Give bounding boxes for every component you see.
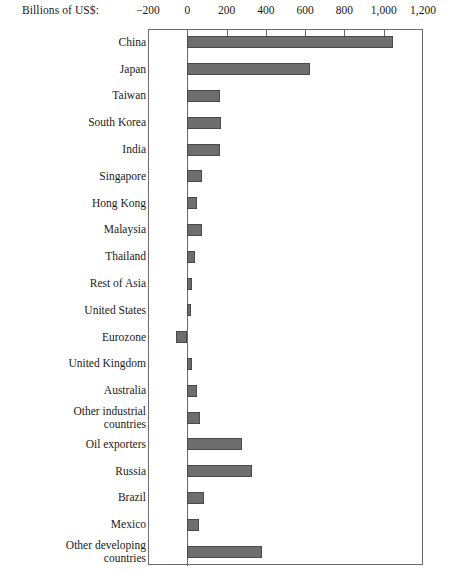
bar-row: Other developing countries (0, 538, 450, 565)
category-label: Japan (0, 63, 146, 76)
category-label: Mexico (0, 518, 146, 531)
bar (187, 90, 220, 102)
bar-row: Taiwan (0, 83, 450, 110)
bar (187, 197, 197, 209)
x-tick-label: 800 (336, 4, 353, 16)
bar (187, 251, 195, 263)
bar-row: Mexico (0, 511, 450, 538)
category-label: Australia (0, 384, 146, 397)
category-label: Other industrial countries (0, 405, 146, 431)
category-label: Other developing countries (0, 539, 146, 565)
bar-row: Malaysia (0, 217, 450, 244)
bar (187, 36, 392, 48)
x-tick-label: 0 (184, 4, 190, 16)
x-tick-label: 1,000 (371, 4, 397, 16)
bar (187, 519, 199, 531)
bar (187, 438, 241, 450)
bar-row: Hong Kong (0, 190, 450, 217)
bar (187, 144, 220, 156)
bar-row: Singapore (0, 163, 450, 190)
bar (187, 170, 202, 182)
bar (187, 117, 221, 129)
bar-row: United Kingdom (0, 351, 450, 378)
bar-row: United States (0, 297, 450, 324)
category-label: United States (0, 304, 146, 317)
bar-row: China (0, 29, 450, 56)
bar-rows: ChinaJapanTaiwanSouth KoreaIndiaSingapor… (0, 29, 450, 565)
bar-row: Australia (0, 377, 450, 404)
category-label: Taiwan (0, 89, 146, 102)
bar (187, 358, 192, 370)
category-label: Brazil (0, 491, 146, 504)
bar-row: Oil exporters (0, 431, 450, 458)
category-label: Thailand (0, 250, 146, 263)
category-label: Rest of Asia (0, 277, 146, 290)
bar (187, 546, 262, 558)
bar-row: Rest of Asia (0, 270, 450, 297)
bar-row: South Korea (0, 109, 450, 136)
bar (187, 412, 199, 424)
x-axis-caption: Billions of US$: (22, 4, 99, 16)
bar-row: Eurozone (0, 324, 450, 351)
category-label: Oil exporters (0, 438, 146, 451)
bar (187, 278, 192, 290)
category-label: China (0, 36, 146, 49)
x-tick-label: −200 (136, 4, 160, 16)
bar (176, 331, 188, 343)
bar-row: Russia (0, 458, 450, 485)
category-label: India (0, 143, 146, 156)
bar (187, 304, 191, 316)
category-label: Russia (0, 465, 146, 478)
category-label: Hong Kong (0, 197, 146, 210)
bar (187, 492, 204, 504)
category-label: Malaysia (0, 223, 146, 236)
bar (187, 465, 251, 477)
x-tick-label: 600 (297, 4, 314, 16)
bar-row: Other industrial countries (0, 404, 450, 431)
x-tick-label: 200 (218, 4, 235, 16)
category-label: South Korea (0, 116, 146, 129)
bar-row: Brazil (0, 485, 450, 512)
bar (187, 224, 201, 236)
x-tick-label: 1,200 (410, 4, 436, 16)
bar-row: Japan (0, 56, 450, 83)
bar (187, 385, 196, 397)
bar-row: India (0, 136, 450, 163)
x-tick-label: 400 (257, 4, 274, 16)
bar (187, 63, 309, 75)
category-label: Eurozone (0, 331, 146, 344)
bar-row: Thailand (0, 243, 450, 270)
category-label: Singapore (0, 170, 146, 183)
bar-chart: Billions of US$: −20002004006008001,0001… (0, 0, 450, 583)
category-label: United Kingdom (0, 357, 146, 370)
